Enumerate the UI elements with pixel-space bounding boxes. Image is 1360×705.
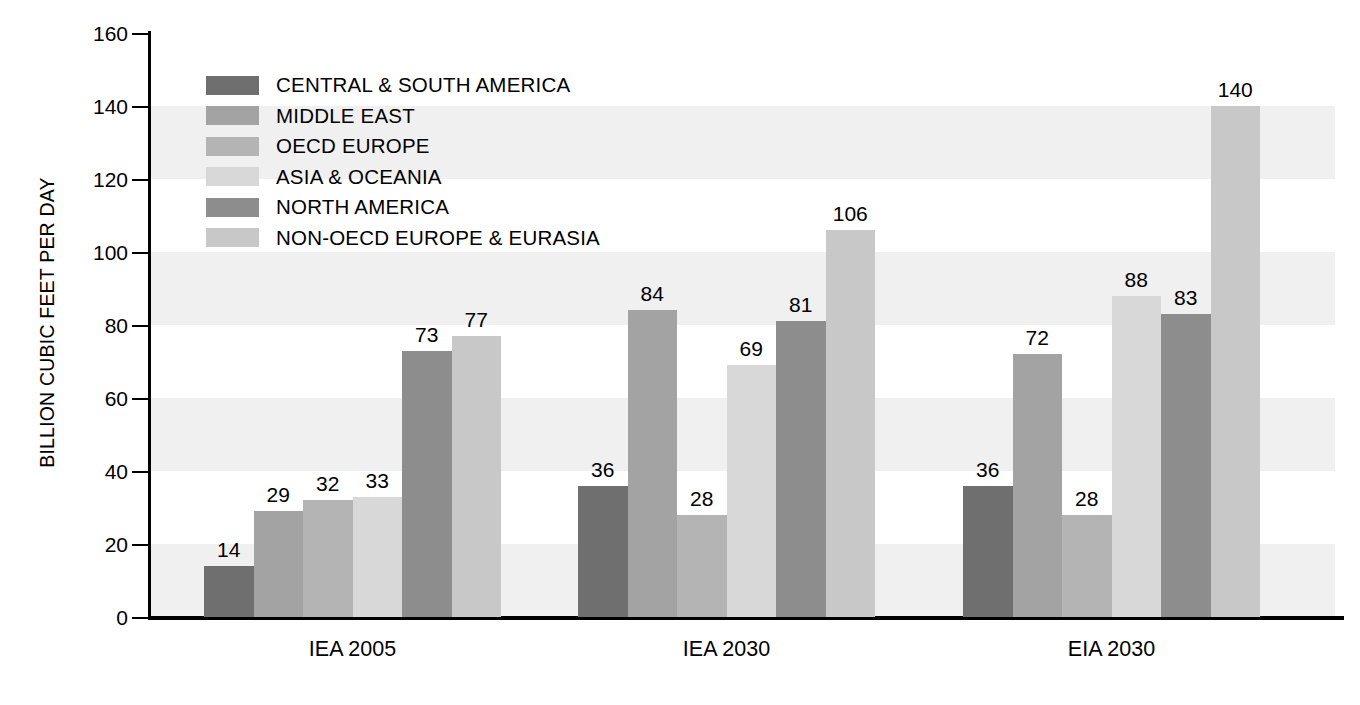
bar	[1161, 314, 1211, 617]
legend-item-label: MIDDLE EAST	[276, 104, 415, 128]
bar	[727, 365, 777, 617]
y-axis-tick-label: 80	[8, 315, 128, 336]
legend-swatch-icon	[206, 198, 259, 217]
bar	[1112, 296, 1162, 617]
y-axis-tick-label: 120	[8, 169, 128, 190]
legend-item: ASIA & OCEANIA	[206, 162, 600, 193]
x-axis-group-label: EIA 2030	[982, 637, 1242, 662]
y-axis-tick-label: 0	[8, 607, 128, 628]
bar	[578, 486, 628, 617]
bar-value-label: 140	[1198, 79, 1274, 100]
y-axis-tick	[132, 398, 149, 400]
legend-swatch-icon	[206, 228, 259, 247]
legend-item-label: CENTRAL & SOUTH AMERICA	[276, 73, 570, 97]
legend-item-label: NORTH AMERICA	[276, 195, 449, 219]
bar	[1062, 515, 1112, 617]
y-axis-tick-label: 100	[8, 242, 128, 263]
bar	[963, 486, 1013, 617]
bar	[254, 511, 304, 617]
y-axis-tick-label: 40	[8, 461, 128, 482]
legend-item-label: OECD EUROPE	[276, 134, 430, 158]
legend-item-label: NON-OECD EUROPE & EURASIA	[276, 226, 600, 250]
bar	[452, 336, 502, 617]
bar	[204, 566, 254, 617]
y-axis-tick	[132, 325, 149, 327]
y-axis-tick	[132, 252, 149, 254]
y-axis-tick-label: 60	[8, 388, 128, 409]
legend-item: OECD EUROPE	[206, 131, 600, 162]
legend-item: NON-OECD EUROPE & EURASIA	[206, 223, 600, 254]
legend-swatch-icon	[206, 167, 259, 186]
legend-item: MIDDLE EAST	[206, 101, 600, 132]
bar	[402, 351, 452, 617]
bar	[776, 321, 826, 617]
y-axis-tick	[132, 179, 149, 181]
bar	[353, 497, 403, 617]
y-axis-tick	[132, 106, 149, 108]
x-axis-group-label: IEA 2005	[223, 637, 483, 662]
bar-value-label: 106	[813, 203, 889, 224]
bar-value-label: 72	[1000, 327, 1076, 348]
bar-value-label: 84	[615, 283, 691, 304]
y-axis-tick-label: 160	[8, 23, 128, 44]
legend-swatch-icon	[206, 76, 259, 95]
bar	[1013, 354, 1063, 617]
bar	[628, 310, 678, 617]
y-axis-tick	[132, 617, 149, 619]
bar	[1211, 106, 1261, 617]
legend-swatch-icon	[206, 106, 259, 125]
bar-chart: BILLION CUBIC FEET PER DAY 0204060801001…	[0, 0, 1360, 705]
y-axis-tick	[132, 544, 149, 546]
legend-item: NORTH AMERICA	[206, 192, 600, 223]
y-axis-tick-label: 140	[8, 96, 128, 117]
y-axis-tick	[132, 33, 149, 35]
y-axis-tick-label: 20	[8, 534, 128, 555]
bar	[826, 230, 876, 617]
legend-swatch-icon	[206, 137, 259, 156]
legend: CENTRAL & SOUTH AMERICAMIDDLE EASTOECD E…	[206, 70, 600, 253]
x-axis-group-label: IEA 2030	[597, 637, 857, 662]
bar-value-label: 77	[439, 309, 515, 330]
legend-item-label: ASIA & OCEANIA	[276, 165, 442, 189]
bar	[303, 500, 353, 617]
y-axis-tick	[132, 471, 149, 473]
legend-item: CENTRAL & SOUTH AMERICA	[206, 70, 600, 101]
bar	[677, 515, 727, 617]
